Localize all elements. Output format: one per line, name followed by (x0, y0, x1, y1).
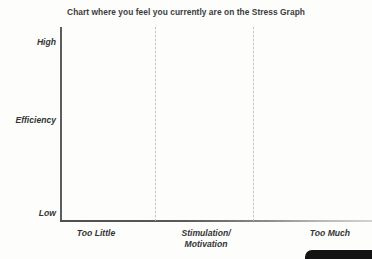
zone-divider-left (155, 27, 156, 221)
y-axis-title-efficiency: Efficiency (16, 115, 56, 125)
x-axis-label-too-much: Too Much (288, 228, 372, 239)
bottom-right-chrome-bar (305, 250, 372, 259)
y-axis-label-low: Low (39, 208, 56, 218)
x-axis-label-stimulation-motivation: Stimulation/ Motivation (160, 228, 252, 250)
x-axis-line (60, 220, 372, 222)
x-axis-label-stimulation-line2: Motivation (185, 239, 228, 249)
x-axis-label-too-little: Too Little (54, 228, 138, 239)
stress-graph-worksheet: Chart where you feel you currently are o… (0, 0, 372, 259)
x-axis-label-stimulation-line1: Stimulation/ (181, 228, 230, 238)
zone-divider-right (253, 27, 254, 221)
y-axis-line (60, 27, 62, 222)
y-axis-label-high: High (37, 37, 56, 47)
